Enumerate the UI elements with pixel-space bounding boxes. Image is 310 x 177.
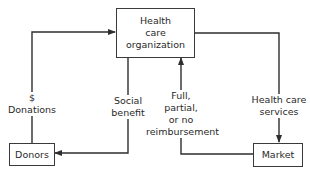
market-node: Market [253, 143, 303, 167]
organization-label-line3: organization [126, 39, 185, 51]
social-benefit-label-line2: benefit [106, 107, 150, 119]
reimbursement-label-line4: reimbursement [146, 126, 216, 138]
services-label: Health care services [249, 94, 309, 118]
services-label-line2: services [249, 106, 309, 118]
reimbursement-label-line2: partial, [146, 102, 216, 114]
social-benefit-label-line1: Social [106, 95, 150, 107]
market-label: Market [262, 149, 295, 161]
reimbursement-label: Full, partial, or no reimbursement [146, 90, 216, 138]
donors-node: Donors [9, 143, 55, 166]
reimbursement-label-line3: or no [146, 114, 216, 126]
donations-arrow [32, 32, 115, 143]
organization-label-line2: care [126, 27, 185, 39]
reimbursement-label-line1: Full, [146, 90, 216, 102]
social-benefit-label: Social benefit [106, 95, 150, 119]
organization-node: Health care organization [116, 8, 195, 58]
donations-label-line1: $ [6, 92, 58, 104]
donors-label: Donors [15, 149, 49, 161]
services-label-line1: Health care [249, 94, 309, 106]
donations-label-line2: Donations [6, 104, 58, 116]
donations-label: $ Donations [6, 92, 58, 116]
organization-label-line1: Health [126, 15, 185, 27]
